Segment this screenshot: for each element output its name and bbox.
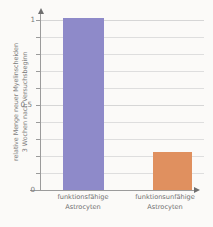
- bars-layer: [41, 20, 204, 190]
- x-label-funktionsunfaehige-astrocyten: funktionsunfähige Astrocyten: [115, 193, 213, 212]
- x-axis-labels: funktionsfähige Astrocyten funktionsunfä…: [41, 193, 206, 223]
- y-tick: [36, 54, 41, 55]
- y-tick-label-0-5: 0,5: [14, 100, 32, 109]
- y-tick: [36, 139, 41, 140]
- y-tick: [36, 105, 41, 106]
- bar-funktionsfaehige-astrocyten: [63, 18, 104, 190]
- y-tick: [36, 156, 41, 157]
- y-tick: [36, 88, 41, 89]
- y-tick: [36, 20, 41, 21]
- y-tick: [36, 173, 41, 174]
- y-tick-label-1: 1: [17, 15, 35, 24]
- bar-funktionsunfaehige-astrocyten: [153, 152, 192, 190]
- x-label-1-line-2: Astrocyten: [115, 203, 213, 213]
- x-axis-line: [30, 190, 195, 191]
- y-tick-label-0: 0: [17, 185, 35, 194]
- y-tick: [36, 71, 41, 72]
- bar-chart: relative Menge neuer Myelinscheiden 3 Wo…: [0, 0, 213, 227]
- y-axis-arrow-icon: [38, 8, 44, 14]
- y-tick: [36, 190, 41, 191]
- x-label-1-line-1: funktionsunfähige: [115, 193, 213, 203]
- y-axis-line: [40, 12, 41, 190]
- y-tick: [36, 122, 41, 123]
- y-tick: [36, 37, 41, 38]
